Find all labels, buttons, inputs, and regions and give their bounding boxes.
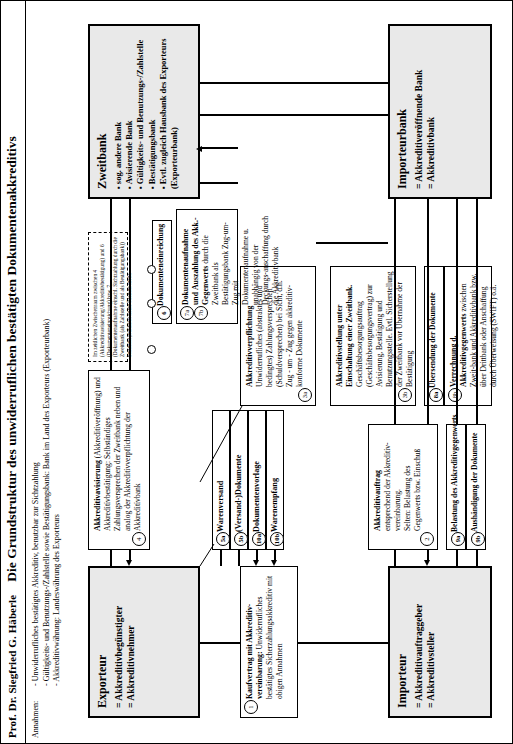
actor-importeur-role-2: Akkreditivsteller — [425, 576, 437, 708]
actor-zweitbank[interactable]: Zweitbank sog. andere Bank Avisierende B… — [88, 24, 200, 199]
connector-step4-exporteur — [129, 550, 131, 560]
step-9b-title: Aushändigung der Dokumente — [470, 433, 479, 532]
connector-exporteur-right-2 — [238, 550, 240, 566]
step-3b-text: Geschäftsbesorgungsauftrag (Geschäftsbes… — [355, 271, 413, 387]
step-2-text: entsprechend der Akkreditiv-vereinbarung… — [383, 442, 422, 531]
connector-zweitbank-importeurbank-a — [200, 114, 388, 116]
connector-importeurbank-step3 — [316, 242, 388, 244]
connector-zweitbank-importeurbank-b — [200, 82, 388, 84]
connector-importeur-9a — [456, 550, 458, 566]
connector-importeur-exporteur — [298, 642, 388, 644]
step-3b-title: Akkreditivstellung unter Einschaltung ei… — [335, 285, 354, 387]
step-row-9a[interactable]: 9a Belastung des Akkreditivgegenwerts — [446, 424, 466, 550]
step-10b-title: Warenempfang — [270, 478, 279, 532]
connector-step9b — [476, 199, 478, 424]
step-3a-number: 3a — [298, 388, 312, 402]
actor-zweitbank-role-1: sog. andere Bank — [113, 34, 124, 189]
step-row-10b[interactable]: 10b Warenempfang — [266, 410, 284, 550]
step-7[interactable]: 7a 7b Dokumentenaufnahme und Auszahlung … — [176, 209, 238, 324]
connector-importeur-step2 — [394, 550, 396, 566]
step-4-title: Akkreditivavisierung — [93, 460, 102, 531]
connector-step9a — [456, 199, 458, 424]
junction-marker-3 — [147, 265, 156, 274]
risk-callout: Im zeitlichen Zwischenraum zwischen 4 (A… — [88, 232, 128, 362]
connector-up-to-zweitbank — [200, 147, 238, 149]
step-row-10a[interactable]: 10a Dokumentenvorlage — [248, 410, 266, 550]
connector-zweitbank-down — [200, 182, 238, 184]
step-4[interactable]: 4 Akkreditivavisierung (Akkreditiveröffn… — [88, 370, 150, 550]
step-3b-number: 3b — [398, 388, 412, 402]
junction-marker-1 — [147, 345, 156, 354]
arrow-into-exporteur-step4 — [126, 560, 132, 566]
step-3b[interactable]: 3b Akkreditivstellung unter Einschaltung… — [330, 266, 416, 406]
step-5a-number: 5a — [216, 532, 230, 546]
actor-importeurbank-role-1: Akkreditiveröffnende Bank — [413, 34, 425, 189]
actor-zweitbank-name: Zweitbank — [96, 34, 110, 189]
step-5b-title: (Versand-)Dokumente — [234, 455, 243, 532]
step-10a-title: Dokumentenvorlage — [252, 461, 261, 532]
step-5a-title: Warenversand — [216, 481, 225, 532]
step-10a-number: 10a — [252, 532, 266, 546]
step-4-number: 4 — [132, 532, 146, 546]
actor-importeurbank-role-2: Akkreditivbank — [425, 34, 437, 189]
step-2-title: Akkreditivauftrag — [373, 470, 382, 531]
connector-importeur-9b — [476, 550, 478, 566]
connector-step2-right — [394, 199, 396, 424]
assumption-item-2: - Gültigkeits- und Benutzungs-/Zahlstell… — [42, 178, 53, 686]
step-6-number: 6 — [157, 306, 171, 320]
step-3a-title: Akkreditivverpflichtung — [245, 306, 254, 387]
actor-exporteur-name: Exporteur — [96, 576, 110, 708]
step-9b-number: 9b — [471, 532, 485, 546]
connector-bank-left — [427, 199, 429, 424]
connector-exporteur-importeur — [200, 642, 240, 644]
step-6-title: Dokumenteneinreichung — [156, 224, 165, 306]
actor-exporteur[interactable]: Exporteur Akkreditivbegünstigter Akkredi… — [88, 566, 200, 718]
actor-importeur[interactable]: Importeur Akkreditivauftraggeber Akkredi… — [388, 566, 492, 718]
connector-step4-zweitbank — [110, 199, 112, 370]
step-row-5a[interactable]: 5a Warenversand — [212, 410, 230, 550]
step-7b-number: 7b — [194, 306, 208, 320]
step-10b-number: 10b — [270, 532, 284, 546]
step-7a-number: 7a — [180, 306, 194, 320]
author-name: Prof. Dr. Siegfried G. Häberle — [6, 588, 18, 738]
actor-importeur-role-1: Akkreditivauftraggeber — [413, 576, 425, 708]
step-row-5b[interactable]: 5b (Versand-)Dokumente — [230, 410, 248, 550]
arrow-into-exporteur-1 — [253, 560, 259, 566]
actor-importeurbank[interactable]: Importeurbank Akkreditiveröffnende Bank … — [388, 24, 492, 199]
connector-exporteur-step4 — [110, 550, 112, 566]
connector-zweitbank-step4 — [129, 199, 131, 370]
arrow-into-exporteur-2 — [271, 560, 277, 566]
step-8a-title: Übersendung der Dokumente — [428, 292, 437, 388]
step-row-9b[interactable]: 9b Aushändigung der Dokumente — [466, 424, 486, 550]
step-2[interactable]: 2 Akkreditivauftrag entsprechend der Akk… — [368, 424, 438, 550]
junction-marker-2 — [147, 299, 156, 308]
step-8b[interactable]: 8b Verrechnung d. Akkreditivgegenwerts z… — [444, 266, 492, 406]
step-1-number: 1 — [244, 700, 258, 714]
connector-exporteur-right-3 — [256, 550, 258, 560]
step-9a-title: Belastung des Akkreditivgegenwerts — [450, 414, 459, 532]
assumptions-block: Annahmen: - Unwiderrufliches bestätigtes… — [31, 178, 63, 738]
diagram-canvas: Prof. Dr. Siegfried G. Häberle Die Grund… — [0, 0, 513, 744]
page-title: Die Grundstruktur des unwiderruflichen b… — [4, 124, 20, 594]
assumption-item-1: - Unwiderrufliches bestätigtes Akkrediti… — [31, 178, 42, 686]
step-8a-number: 8a — [429, 388, 443, 402]
step-2-number: 2 — [420, 532, 434, 546]
actor-zweitbank-role-5: Evtl. zugleich Hausbank des Exporteurs (… — [158, 34, 180, 189]
actor-exporteur-role-1: Akkreditivbegünstigter — [113, 576, 125, 708]
header-divider — [25, 0, 26, 744]
actor-zweitbank-role-2: Avisierende Bank — [124, 34, 135, 189]
step-9a-number: 9a — [451, 532, 465, 546]
step-1[interactable]: 1 Kaufvertrag mit Akkreditiv-vereinbarun… — [240, 566, 298, 718]
connector-exporteur-right-4 — [274, 550, 276, 560]
assumptions-label: Annahmen: — [31, 686, 42, 738]
step-5b-number: 5b — [234, 532, 248, 546]
actor-importeurbank-name: Importeurbank — [396, 34, 410, 189]
step-8b-title: Verrechnung d. Akkreditivgegenwerts — [449, 314, 468, 387]
actor-zweitbank-role-4: Bestätigungsbank — [147, 34, 158, 189]
actor-zweitbank-role-3: Gültigkeits- und Benutzungs-/Zahlstelle — [135, 34, 146, 189]
actor-importeur-name: Importeur — [396, 576, 410, 708]
arrow-into-importeur — [424, 560, 430, 566]
actor-exporteur-role-2: Akkreditivnehmer — [125, 576, 137, 708]
assumption-item-3: - Akkreditivwährung: Landeswährung des E… — [52, 178, 63, 686]
connector-step2-importeur — [427, 550, 429, 560]
